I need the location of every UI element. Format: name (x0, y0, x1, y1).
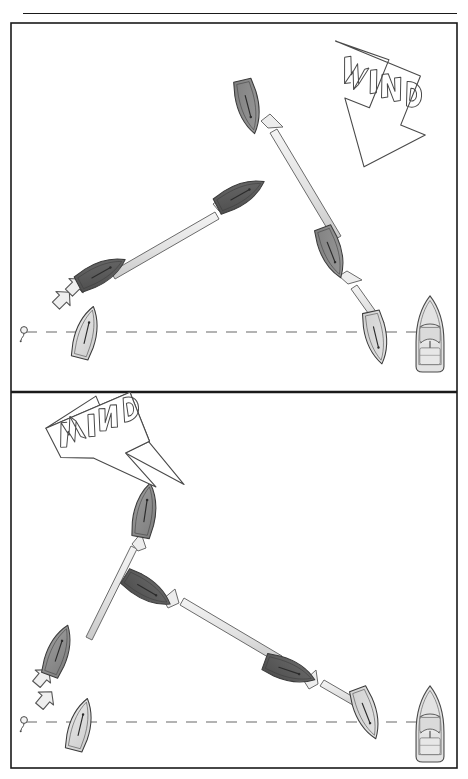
track-arrow-top-port-leg (111, 198, 234, 279)
boat-top-mark-approach-mid (232, 78, 266, 136)
boat-bottom-start-right-light (348, 685, 386, 742)
wind-arrow-bottom (41, 381, 184, 512)
committee-motorboat-bottom (416, 686, 444, 762)
boat-bottom-windward-mid (130, 481, 161, 539)
pin-end-buoy-bottom (20, 717, 28, 733)
boat-top-start-right-light (360, 310, 392, 366)
wind-arrow-top (313, 41, 440, 177)
committee-motorboat-top (416, 296, 444, 372)
pin-end-buoy-top (20, 327, 28, 343)
small-arrow-bottom-lower (32, 685, 60, 712)
boat-top-upwind-port-dark (212, 172, 269, 216)
diagram-page (0, 0, 468, 779)
panel-bottom (20, 381, 444, 762)
sailing-diagram-canvas (0, 0, 468, 779)
panel-top (20, 41, 444, 372)
boat-bottom-after-tack-mid (40, 622, 78, 679)
track-arrow-top-starboard-leg (261, 114, 341, 240)
track-arrow-bottom-cross-leg (163, 589, 282, 663)
boat-bottom-start-light (63, 696, 97, 753)
